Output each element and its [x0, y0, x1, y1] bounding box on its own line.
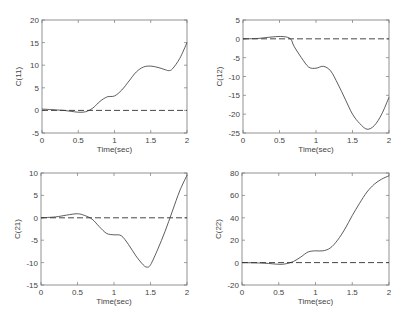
- axes-box-c11: [42, 20, 187, 133]
- ytick-label: 20: [230, 236, 239, 245]
- ytick-label: 80: [230, 169, 239, 178]
- ytick-label: -10: [228, 73, 240, 82]
- xtick-label: 1.5: [145, 288, 157, 297]
- xtick-label: 1: [313, 288, 318, 297]
- series-solid-c21: [41, 175, 187, 267]
- ytick-label: -15: [26, 281, 38, 290]
- subplot-c11: 00.511.52-505101520C(11)Time(sec): [14, 16, 190, 154]
- ylabel-c11: C(11): [14, 66, 23, 86]
- ytick-label: 5: [236, 16, 241, 25]
- xtick-label: 0.5: [274, 136, 286, 145]
- ytick-label: 20: [30, 16, 39, 25]
- series-solid-c22: [242, 176, 389, 265]
- xlabel-c12: Time(sec): [298, 145, 334, 154]
- ytick-label: 60: [230, 191, 239, 200]
- xtick-label: 2: [387, 288, 392, 297]
- ylabel-c22: C(22): [214, 219, 223, 239]
- ytick-label: 0: [236, 35, 241, 44]
- axes-box-c12: [243, 20, 389, 133]
- ytick-label: 5: [34, 191, 39, 200]
- ytick-label: 5: [35, 84, 40, 93]
- xtick-label: 0.5: [73, 136, 85, 145]
- xtick-label: 1.5: [347, 136, 359, 145]
- ytick-label: -10: [26, 259, 38, 268]
- xlabel-c22: Time(sec): [298, 297, 334, 306]
- xtick-label: 1.5: [145, 136, 157, 145]
- ytick-label: 0: [35, 106, 40, 115]
- ytick-label: -5: [233, 54, 241, 63]
- subplot-c12: 00.511.52-25-20-15-10-505C(12)Time(sec): [215, 16, 392, 154]
- ytick-label: 40: [230, 214, 239, 223]
- ylabel-c12: C(12): [215, 66, 224, 86]
- series-solid-c11: [42, 43, 187, 113]
- ytick-label: 10: [30, 61, 39, 70]
- ytick-label: -25: [228, 129, 240, 138]
- xtick-label: 1: [314, 136, 319, 145]
- xtick-label: 0.5: [273, 288, 285, 297]
- xtick-label: 2: [185, 136, 190, 145]
- axes-box-c22: [242, 173, 389, 285]
- xtick-label: 1: [112, 288, 117, 297]
- xtick-label: 0: [240, 288, 245, 297]
- ytick-label: 15: [30, 39, 39, 48]
- xtick-label: 0.5: [72, 288, 84, 297]
- xtick-label: 2: [185, 288, 190, 297]
- ytick-label: -20: [228, 110, 240, 119]
- xlabel-c11: Time(sec): [97, 145, 133, 154]
- ytick-label: 10: [29, 169, 38, 178]
- series-solid-c12: [243, 36, 389, 129]
- xtick-label: 2: [387, 136, 392, 145]
- subplot-c21: 00.511.52-15-10-50510C(21)Time(sec): [13, 169, 190, 306]
- xtick-label: 1.5: [347, 288, 359, 297]
- figure: 00.511.52-505101520C(11)Time(sec) 00.511…: [0, 0, 405, 317]
- subplot-c22: 00.511.52-20020406080C(22)Time(sec): [214, 169, 392, 306]
- ytick-label: -5: [32, 129, 40, 138]
- xtick-label: 0: [40, 136, 45, 145]
- ylabel-c21: C(21): [13, 219, 22, 239]
- ytick-label: -5: [31, 236, 39, 245]
- ytick-label: 0: [34, 214, 39, 223]
- xtick-label: 0: [241, 136, 246, 145]
- xlabel-c21: Time(sec): [96, 297, 132, 306]
- ytick-label: -20: [227, 281, 239, 290]
- xtick-label: 1: [112, 136, 117, 145]
- xtick-label: 0: [39, 288, 44, 297]
- axes-box-c21: [41, 173, 187, 285]
- ytick-label: 0: [235, 259, 240, 268]
- ytick-label: -15: [228, 91, 240, 100]
